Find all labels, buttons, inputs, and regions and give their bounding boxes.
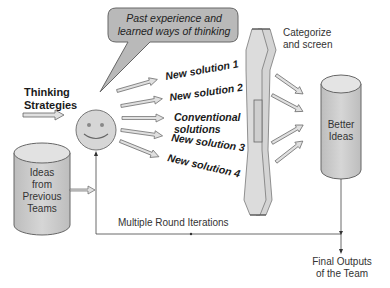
diagram-canvas: Past experience and learned ways of thin… xyxy=(0,0,390,288)
solution-labels: New solution 1 New solution 2 Convention… xyxy=(164,57,246,179)
final-outputs-label-1: Final Outputs xyxy=(312,256,371,267)
previous-ideas-label-2: from xyxy=(32,179,52,190)
previous-ideas-label-4: Teams xyxy=(27,203,56,214)
final-outputs: Final Outputs of the Team xyxy=(312,256,371,279)
block-arrow-icon xyxy=(23,110,64,120)
bubble-line-2: learned ways of thinking xyxy=(118,25,231,37)
smiley-face-icon xyxy=(76,110,116,150)
thinking-label-2: Strategies xyxy=(24,99,77,111)
thinking-label-1: Thinking xyxy=(24,86,70,98)
previous-ideas-cylinder: Ideas from Previous Teams xyxy=(14,143,95,235)
categorize-label-1: Categorize xyxy=(283,27,332,38)
previous-ideas-label-1: Ideas xyxy=(30,167,54,178)
iterations-label: Multiple Round Iterations xyxy=(118,217,229,228)
solution-2-label: New solution 2 xyxy=(169,81,244,103)
better-ideas-cylinder: Better Ideas xyxy=(321,75,361,179)
solution-arrows xyxy=(116,76,164,161)
better-ideas-label-1: Better xyxy=(328,119,355,130)
solution-4-label: New solution 4 xyxy=(167,151,242,179)
categorize-label-2: and screen xyxy=(283,39,332,50)
bubble-line-1: Past experience and xyxy=(126,12,223,24)
previous-ideas-label-3: Previous xyxy=(23,191,62,202)
output-arrows xyxy=(270,72,305,165)
screening-funnel-icon: Categorize and screen xyxy=(244,27,332,215)
conventional-label-1: Conventional xyxy=(174,111,242,123)
final-outputs-label-2: of the Team xyxy=(316,268,368,279)
better-ideas-label-2: Ideas xyxy=(329,131,353,142)
block-arrow-icon xyxy=(70,186,95,194)
thinking-strategies: Thinking Strategies xyxy=(23,86,77,120)
solution-1-label: New solution 1 xyxy=(164,57,239,82)
